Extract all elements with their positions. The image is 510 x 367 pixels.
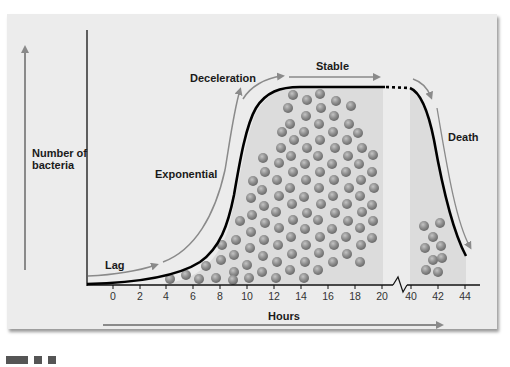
- y-axis-label-line1: Number of: [32, 147, 87, 159]
- y-axis-label-line2: bacteria: [32, 159, 87, 171]
- figure-caption-fragment: [6, 356, 66, 367]
- x-tick-label: 18: [349, 290, 361, 302]
- phase-label-stable: Stable: [316, 60, 349, 72]
- y-axis-label: Number of bacteria: [32, 147, 87, 171]
- x-tick-label: 2: [137, 290, 143, 302]
- x-tick-label: 8: [217, 290, 223, 302]
- growth-curve-dotted: [386, 87, 410, 88]
- x-tick-label: 10: [241, 290, 253, 302]
- phase-label-deceleration: Deceleration: [190, 72, 256, 84]
- x-tick-label: 12: [268, 290, 280, 302]
- growth-curve-graphic: [0, 0, 510, 367]
- phase-label-exponential: Exponential: [155, 168, 217, 180]
- x-tick-label: 16: [322, 290, 334, 302]
- x-axis-label: Hours: [268, 310, 300, 322]
- x-tick-label: 4: [163, 290, 169, 302]
- x-tick-label: 20: [376, 290, 388, 302]
- x-tick-label: 0: [110, 290, 116, 302]
- x-tick-label: 40: [405, 290, 417, 302]
- x-tick-label: 44: [459, 290, 471, 302]
- x-tick-label: 42: [432, 290, 444, 302]
- x-tick-label: 6: [190, 290, 196, 302]
- phase-label-lag: Lag: [105, 259, 125, 271]
- phase-label-death: Death: [448, 131, 479, 143]
- x-tick-label: 14: [295, 290, 307, 302]
